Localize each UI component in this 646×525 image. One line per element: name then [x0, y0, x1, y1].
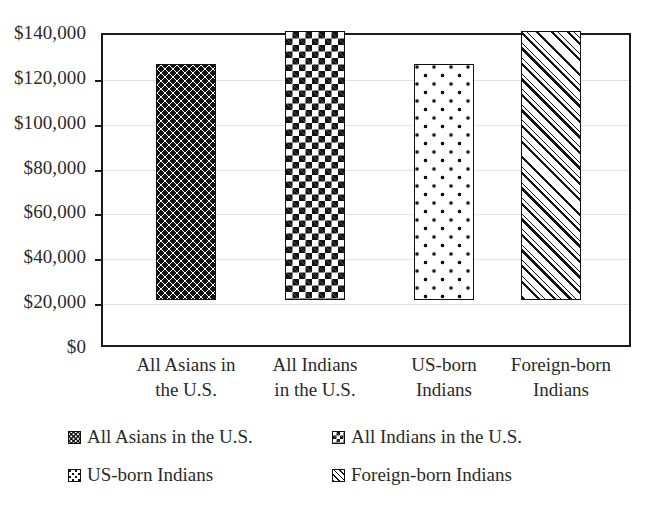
legend-label: US-born Indians	[87, 465, 213, 485]
x-label-line-1: All Asians in	[109, 352, 263, 377]
y-axis-label-60000: $60,000	[24, 201, 86, 223]
y-axis-label-140000: $140,000	[14, 22, 86, 44]
x-axis-label-all-indians-in-the-us: All Indians in the U.S.	[242, 352, 388, 402]
legend-item-us-born-indians[interactable]: US-born Indians	[68, 462, 213, 488]
x-label-line-2: in the U.S.	[242, 377, 388, 402]
y-axis-label-40000: $40,000	[24, 246, 86, 268]
y-axis-label-100000: $100,000	[14, 112, 86, 134]
x-label-line-1: Foreign-born	[491, 352, 631, 377]
bar-chart: $140,000 $120,000 $100,000 $80,000 $60,0…	[0, 0, 646, 191]
x-label-line-1: All Indians	[242, 352, 388, 377]
x-axis-labels: All Asians in the U.S. All Indians in th…	[101, 352, 631, 408]
x-axis-label-all-asians-in-the-us: All Asians in the U.S.	[109, 352, 263, 402]
bar-us-born-indians[interactable]	[414, 64, 474, 300]
bar-all-indians-in-the-us[interactable]	[285, 31, 345, 300]
legend-item-all-asians-in-the-us[interactable]: All Asians in the U.S.	[68, 424, 253, 450]
legend-swatch-diagonal-hatch-icon	[332, 469, 345, 482]
x-label-line-2: the U.S.	[109, 377, 263, 402]
y-axis-label-20000: $20,000	[24, 291, 86, 313]
y-axis-label-80000: $80,000	[24, 157, 86, 179]
legend-label: Foreign-born Indians	[351, 465, 512, 485]
legend-swatch-dense-checker-icon	[332, 431, 345, 444]
legend-swatch-sparse-round-dots-icon	[68, 469, 81, 482]
bar-foreign-born-indians[interactable]	[521, 31, 581, 300]
y-tick-20000	[95, 304, 103, 306]
legend-swatch-square-dot-grid-icon	[68, 431, 81, 444]
y-axis-label-120000: $120,000	[14, 67, 86, 89]
x-axis-label-foreign-born-indians: Foreign-born Indians	[491, 352, 631, 402]
y-axis-labels: $140,000 $120,000 $100,000 $80,000 $60,0…	[0, 33, 94, 347]
bar-all-asians-in-the-us[interactable]	[156, 64, 216, 300]
chart-legend: All Asians in the U.S. All Indians in th…	[60, 424, 620, 504]
y-axis-label-0: $0	[67, 336, 86, 358]
legend-item-foreign-born-indians[interactable]: Foreign-born Indians	[332, 462, 512, 488]
x-label-line-2: Indians	[491, 377, 631, 402]
bar-series	[101, 33, 631, 300]
legend-label: All Asians in the U.S.	[87, 427, 253, 447]
legend-label: All Indians in the U.S.	[351, 427, 522, 447]
gridline-20000	[103, 304, 629, 305]
legend-item-all-indians-in-the-us[interactable]: All Indians in the U.S.	[332, 424, 522, 450]
